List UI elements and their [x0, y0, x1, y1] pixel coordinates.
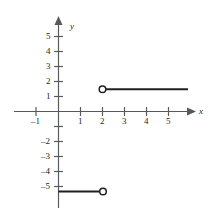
y-tick-label--5: –5: [41, 182, 50, 191]
x-axis-arrow-icon: [187, 108, 196, 116]
x-tick-label-2: 2: [100, 117, 105, 126]
x-tick-label-1: 1: [78, 117, 83, 126]
x-axis-label: x: [199, 107, 203, 116]
coordinate-plane: [0, 0, 212, 217]
open-point-2-1: [99, 86, 106, 93]
y-tick-label-1: 1: [46, 92, 51, 101]
y-tick-label--2: –2: [41, 137, 50, 146]
y-tick-label-2: 2: [46, 77, 51, 86]
y-tick-label-5: 5: [46, 32, 51, 41]
x-tick-label-4: 4: [144, 117, 149, 126]
y-tick-label-4: 4: [46, 47, 51, 56]
x-tick-label-3: 3: [122, 117, 127, 126]
x-tick-label--1: –1: [31, 117, 40, 126]
graph-figure: y x –1 1 2 3 4 5 5 4 3 2 1 –2 –3 –4 –5: [0, 0, 212, 217]
y-tick-label--4: –4: [41, 167, 50, 176]
y-tick-label-3: 3: [46, 62, 51, 71]
y-tick-label--3: –3: [41, 152, 50, 161]
y-axis-arrow-icon: [55, 16, 63, 25]
x-tick-label-5: 5: [166, 117, 171, 126]
y-axis-label: y: [70, 22, 74, 31]
open-point-2--5: [100, 188, 107, 195]
